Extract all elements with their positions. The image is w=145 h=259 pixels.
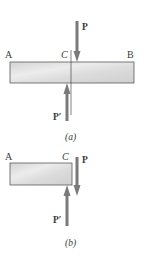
force-p-prime-arrow-icon	[64, 83, 71, 121]
beam-full	[10, 62, 134, 83]
shear-diagram: A C B P P′ (a) A C P P′ (b)	[0, 0, 145, 259]
caption-a: (a)	[65, 132, 76, 143]
label-b-point-a: A	[5, 151, 13, 162]
force-p-arrow-icon	[74, 21, 81, 62]
force-p-prime-arrow-icon	[64, 185, 71, 226]
label-b-force-p-prime: P′	[53, 215, 62, 225]
label-a-force-p: P	[82, 22, 88, 32]
label-b-point-c: C	[62, 151, 69, 162]
caption-b: (b)	[65, 238, 76, 249]
figure-a: A C B P P′ (a)	[5, 21, 134, 143]
beam-segment-ac	[10, 163, 72, 185]
label-a-point-b: B	[127, 49, 134, 60]
force-p-arrow-icon	[74, 157, 81, 196]
figure-b: A C P P′ (b)	[5, 151, 88, 249]
label-a-force-p-prime: P′	[53, 112, 62, 122]
label-b-force-p: P	[82, 155, 88, 165]
label-a-point-c: C	[61, 49, 68, 60]
label-a-point-a: A	[5, 49, 13, 60]
